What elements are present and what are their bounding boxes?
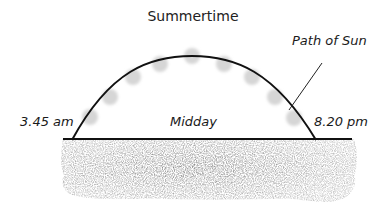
sun-icon	[286, 110, 302, 126]
path-pointer	[289, 63, 322, 110]
sun-path-diagram	[0, 0, 386, 208]
sun-icon	[267, 89, 283, 105]
sunrise-label: 3.45 am	[20, 114, 74, 129]
sunset-label: 8.20 pm	[314, 114, 368, 129]
path-of-sun-label: Path of Sun	[292, 33, 367, 48]
midday-label: Midday	[170, 114, 217, 129]
sun-icon	[102, 89, 118, 105]
ground	[62, 139, 357, 201]
